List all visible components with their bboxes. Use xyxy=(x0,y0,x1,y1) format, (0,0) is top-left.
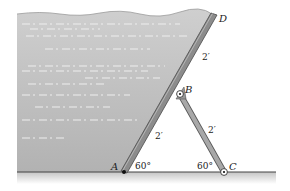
label-d: D xyxy=(218,13,227,24)
hinge-a-icon xyxy=(122,170,126,174)
label-c: C xyxy=(229,161,237,172)
dim-ab: 2′ xyxy=(155,131,163,141)
ground-shadow xyxy=(17,172,276,184)
dim-bc: 2′ xyxy=(208,125,216,135)
label-a: A xyxy=(110,161,118,172)
label-b: B xyxy=(184,84,192,95)
gate-diagram: D B A C 2′ 2′ 2′ 60° 60° xyxy=(0,0,290,191)
dim-bd: 2′ xyxy=(202,52,210,62)
angle-c: 60° xyxy=(197,161,213,171)
angle-a: 60° xyxy=(135,161,151,171)
pin-c-icon xyxy=(221,169,228,176)
pin-b-icon xyxy=(177,91,184,98)
